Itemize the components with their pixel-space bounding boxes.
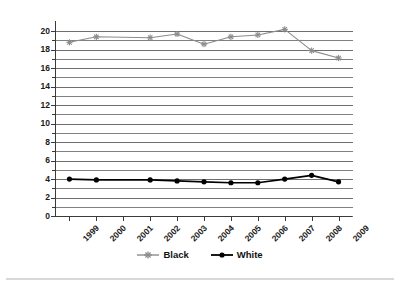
legend-label-white: White [237, 249, 263, 260]
data-point-marker-star [66, 39, 72, 45]
data-point-marker-circle [336, 179, 341, 184]
data-point-marker-circle [174, 178, 179, 183]
legend-marker-circle-icon [211, 250, 233, 260]
data-point-marker-circle [67, 176, 72, 181]
data-point-marker-circle [282, 176, 287, 181]
legend-label-black: Black [163, 249, 188, 260]
chart-legend: Black White [0, 249, 400, 260]
data-point-marker-star [174, 31, 180, 37]
series-group [0, 0, 400, 286]
data-point-marker-star [201, 41, 207, 47]
data-point-marker-circle [309, 173, 314, 178]
data-point-marker-circle [255, 180, 260, 185]
data-point-marker-star [228, 34, 234, 40]
data-point-marker-star [282, 26, 288, 32]
legend-marker-star-icon [137, 250, 159, 260]
data-point-marker-star [309, 48, 315, 54]
data-point-marker-star [335, 55, 341, 61]
legend-item-black[interactable]: Black [137, 249, 188, 260]
data-point-marker-star [147, 35, 153, 41]
data-point-marker-circle [94, 177, 99, 182]
data-point-marker-circle [201, 179, 206, 184]
footer-divider [6, 278, 394, 280]
data-point-marker-star [93, 34, 99, 40]
data-point-marker-circle [228, 180, 233, 185]
data-point-marker-circle [148, 177, 153, 182]
legend-item-white[interactable]: White [211, 249, 263, 260]
data-point-marker-star [255, 32, 261, 38]
chart-figure: Rate per 100,000 02468101214161820 19992… [0, 0, 400, 286]
